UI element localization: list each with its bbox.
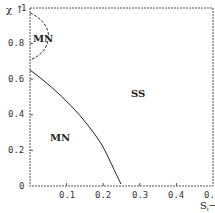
x-axis-label: Si→ [200, 200, 215, 212]
region-label-ss: SS [131, 88, 145, 99]
x-tick-0.1: 0.1 [59, 190, 75, 200]
x-tick-0.4: 0.4 [168, 190, 184, 200]
x-tick-0.3: 0.3 [132, 190, 148, 200]
y-tick-0.4: 0.4 [8, 109, 24, 119]
x-tick-0.2: 0.2 [95, 190, 111, 200]
phase-diagram: 0 0.2 0.4 0.6 0.8 χ ↑ 1 0.1 0.2 0.3 0.4 … [0, 0, 215, 213]
x-tick-0.5: 0.5 [204, 190, 215, 200]
region-label-mn-top: MN [33, 33, 53, 44]
y-tick-0.8: 0.8 [8, 38, 24, 48]
y-tick-0.2: 0.2 [8, 145, 24, 155]
y-tick-0: 0 [19, 181, 24, 191]
region-label-mn-bottom: MN [50, 132, 70, 143]
plot-frame [30, 8, 213, 186]
y-tick-0.6: 0.6 [8, 74, 24, 84]
y-tick-1: 1 [21, 3, 26, 13]
mn-ss-boundary [30, 70, 121, 184]
